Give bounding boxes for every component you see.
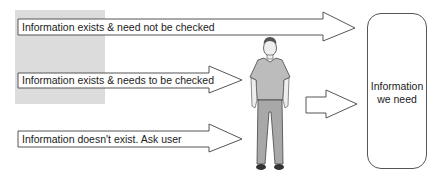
- label-info-exists-check: Information exists & needs to be checked: [22, 74, 214, 86]
- target-line2: we need: [367, 93, 427, 106]
- person-icon: [250, 37, 290, 170]
- label-info-not-exist: Information doesn't exist. Ask user: [22, 133, 182, 145]
- arrow-to-target: [306, 90, 357, 118]
- target-line1: Information: [367, 80, 427, 93]
- target-box-label: Information we need: [367, 80, 427, 106]
- label-info-exists-no-check: Information exists & need not be checked: [22, 21, 215, 33]
